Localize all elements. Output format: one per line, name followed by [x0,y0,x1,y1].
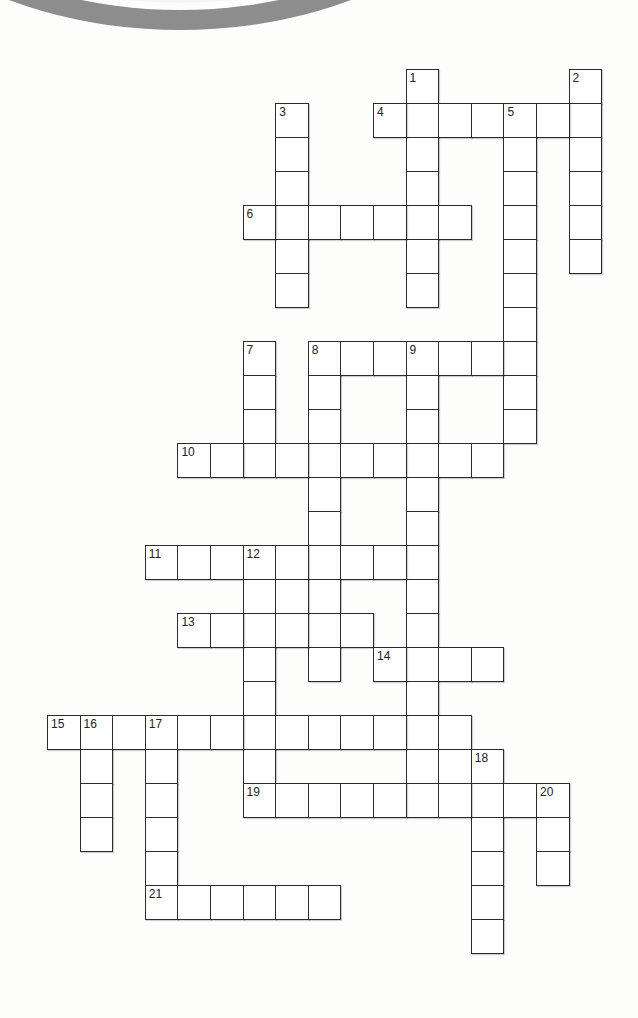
crossword-cell[interactable] [210,715,244,750]
crossword-cell[interactable] [438,783,472,818]
crossword-cell[interactable] [275,545,309,580]
crossword-cell[interactable] [471,783,505,818]
crossword-cell[interactable] [145,749,179,784]
crossword-cell[interactable] [275,205,309,240]
crossword-cell[interactable] [406,205,440,240]
crossword-cell[interactable]: 3 [275,103,309,138]
crossword-cell[interactable] [569,239,603,274]
crossword-cell[interactable] [438,749,472,784]
crossword-cell[interactable] [471,341,505,376]
crossword-cell[interactable] [210,443,244,478]
crossword-cell[interactable] [145,783,179,818]
crossword-cell[interactable] [471,885,505,920]
crossword-cell[interactable] [210,885,244,920]
crossword-cell[interactable] [80,749,114,784]
crossword-cell[interactable] [406,511,440,546]
crossword-cell[interactable] [308,205,342,240]
crossword-cell[interactable] [438,715,472,750]
crossword-cell[interactable] [503,783,537,818]
crossword-cell[interactable] [80,783,114,818]
crossword-cell[interactable] [503,239,537,274]
crossword-cell[interactable] [373,443,407,478]
crossword-cell[interactable] [406,783,440,818]
crossword-cell[interactable]: 14 [373,647,407,682]
crossword-cell[interactable] [373,545,407,580]
crossword-cell[interactable] [243,749,277,784]
crossword-cell[interactable] [340,341,374,376]
crossword-cell[interactable] [340,443,374,478]
crossword-cell[interactable]: 7 [243,341,277,376]
crossword-cell[interactable] [536,851,570,886]
crossword-cell[interactable] [243,647,277,682]
crossword-cell[interactable] [340,545,374,580]
crossword-cell[interactable]: 20 [536,783,570,818]
crossword-cell[interactable] [340,613,374,648]
crossword-cell[interactable] [275,273,309,308]
crossword-cell[interactable] [406,579,440,614]
crossword-cell[interactable] [471,443,505,478]
crossword-cell[interactable] [569,137,603,172]
crossword-cell[interactable] [275,783,309,818]
crossword-cell[interactable] [373,715,407,750]
crossword-cell[interactable] [308,647,342,682]
crossword-cell[interactable] [536,103,570,138]
crossword-cell[interactable] [503,205,537,240]
crossword-cell[interactable] [438,205,472,240]
crossword-cell[interactable] [275,239,309,274]
crossword-cell[interactable] [275,579,309,614]
crossword-cell[interactable] [308,477,342,512]
crossword-cell[interactable] [569,205,603,240]
crossword-cell[interactable] [406,545,440,580]
crossword-cell[interactable]: 4 [373,103,407,138]
crossword-cell[interactable] [177,715,211,750]
crossword-cell[interactable]: 12 [243,545,277,580]
crossword-cell[interactable] [308,409,342,444]
crossword-cell[interactable]: 6 [243,205,277,240]
crossword-cell[interactable] [503,273,537,308]
crossword-cell[interactable] [406,443,440,478]
crossword-cell[interactable] [275,137,309,172]
crossword-cell[interactable] [406,647,440,682]
crossword-cell[interactable] [406,749,440,784]
crossword-cell[interactable] [275,885,309,920]
crossword-cell[interactable] [503,409,537,444]
crossword-cell[interactable] [406,409,440,444]
crossword-cell[interactable] [373,783,407,818]
crossword-cell[interactable] [503,137,537,172]
crossword-cell[interactable] [503,171,537,206]
crossword-cell[interactable]: 5 [503,103,537,138]
crossword-cell[interactable] [569,171,603,206]
crossword-cell[interactable] [275,443,309,478]
crossword-cell[interactable] [177,885,211,920]
crossword-cell[interactable] [406,715,440,750]
crossword-cell[interactable] [503,307,537,342]
crossword-cell[interactable] [308,783,342,818]
crossword-cell[interactable]: 16 [80,715,114,750]
crossword-cell[interactable]: 21 [145,885,179,920]
crossword-cell[interactable]: 17 [145,715,179,750]
crossword-cell[interactable]: 19 [243,783,277,818]
crossword-cell[interactable] [438,341,472,376]
crossword-cell[interactable] [373,341,407,376]
crossword-cell[interactable] [536,817,570,852]
crossword-cell[interactable] [406,477,440,512]
crossword-cell[interactable] [340,715,374,750]
crossword-cell[interactable] [243,375,277,410]
crossword-cell[interactable] [471,103,505,138]
crossword-cell[interactable] [243,715,277,750]
crossword-cell[interactable] [406,171,440,206]
crossword-cell[interactable] [210,613,244,648]
crossword-cell[interactable]: 8 [308,341,342,376]
crossword-cell[interactable] [308,715,342,750]
crossword-cell[interactable] [308,511,342,546]
crossword-cell[interactable] [406,137,440,172]
crossword-cell[interactable] [340,783,374,818]
crossword-cell[interactable] [243,409,277,444]
crossword-cell[interactable] [243,579,277,614]
crossword-cell[interactable]: 1 [406,69,440,104]
crossword-cell[interactable] [308,579,342,614]
crossword-cell[interactable] [406,103,440,138]
crossword-cell[interactable] [406,613,440,648]
crossword-cell[interactable] [243,613,277,648]
crossword-cell[interactable] [308,443,342,478]
